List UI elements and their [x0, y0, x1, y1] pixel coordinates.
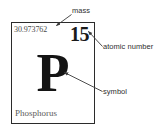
- callout-label-symbol: symbol: [103, 87, 127, 96]
- atomic-mass-value: 30.973762: [14, 25, 47, 34]
- element-symbol-value: P: [12, 45, 94, 101]
- element-name-value: Phosphorus: [15, 108, 57, 118]
- element-diagram: 30.973762 15 P Phosphorus mass atomic nu…: [0, 0, 167, 133]
- callout-label-mass: mass: [72, 6, 90, 15]
- atomic-number-value: 15: [70, 24, 89, 45]
- element-cell: 30.973762 15 P Phosphorus: [11, 22, 95, 124]
- callout-label-atomic-number: atomic number: [103, 42, 153, 51]
